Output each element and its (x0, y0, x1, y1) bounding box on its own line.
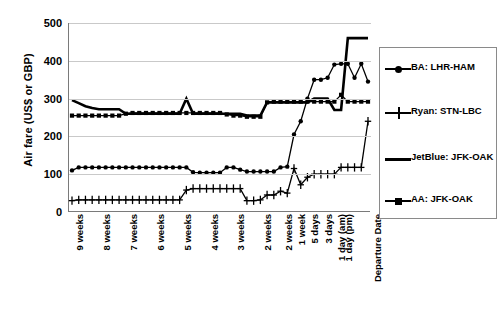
marker-point (83, 165, 87, 169)
marker-point (204, 111, 208, 115)
marker-point (292, 100, 296, 104)
marker-point (117, 114, 121, 118)
legend-square-marker (395, 198, 402, 205)
y-axis-tick-labels: 5004003002001000 (26, 0, 62, 322)
y-tick-label: 300 (28, 94, 62, 104)
plot-area (68, 23, 370, 212)
marker-point (77, 114, 81, 118)
legend-square-icon (385, 195, 411, 207)
marker-point (110, 114, 114, 118)
marker-point (97, 114, 101, 118)
marker-point (164, 165, 168, 169)
marker-point (278, 165, 282, 169)
marker-point (252, 115, 256, 119)
y-tick-label: 400 (28, 56, 62, 66)
legend-line (385, 158, 411, 161)
x-tick-label: 5 weeks (183, 214, 193, 304)
marker-point (157, 165, 161, 169)
marker-point (137, 111, 141, 115)
marker-point (339, 62, 343, 66)
marker-point (130, 111, 134, 115)
legend-item[interactable]: JetBlue: JFK-OAK (385, 152, 495, 165)
marker-point (272, 169, 276, 173)
gridline (69, 99, 371, 100)
x-tick-label: 3 days (324, 214, 334, 304)
marker-point (231, 165, 235, 169)
marker-point (265, 100, 269, 104)
y-tick-label: 200 (28, 131, 62, 141)
marker-point (110, 165, 114, 169)
marker-point (319, 78, 323, 82)
marker-point (332, 62, 336, 66)
legend-item[interactable]: BA: LHR-HAM (385, 62, 495, 75)
marker-point (77, 165, 81, 169)
marker-point (245, 115, 249, 119)
marker-point (130, 165, 134, 169)
marker-point (124, 112, 128, 116)
marker-point (312, 100, 316, 104)
legend-plus-marker (398, 107, 400, 119)
gridline (69, 23, 371, 24)
marker-point (171, 165, 175, 169)
marker-point (151, 111, 155, 115)
gridline (69, 174, 371, 175)
marker-point (218, 111, 222, 115)
marker-point (164, 111, 168, 115)
marker-point (103, 165, 107, 169)
marker-point (211, 111, 215, 115)
legend-label: Ryan: STN-LBC (411, 106, 482, 117)
marker-point (70, 114, 74, 118)
marker-point (117, 165, 121, 169)
marker-point (104, 114, 108, 118)
marker-point (171, 111, 175, 115)
marker-point (352, 100, 356, 104)
x-tick-label: 2 weeks (263, 214, 273, 304)
legend-line-icon (385, 153, 411, 165)
marker-point (238, 167, 242, 171)
marker-point (332, 100, 336, 104)
marker-point (144, 165, 148, 169)
chart-figure: Air fare (US$ or GBP) 5004003002001000 9… (0, 0, 501, 322)
marker-point (225, 165, 229, 169)
chart-legend: BA: LHR-HAMRyan: STN-LBCJetBlue: JFK-OAK… (379, 47, 497, 219)
x-tick-label: 5 days (310, 214, 320, 304)
marker-point (97, 165, 101, 169)
marker-point (339, 93, 343, 97)
gridline (69, 136, 371, 137)
y-tick-label: 500 (28, 18, 62, 28)
marker-point (359, 100, 363, 104)
marker-point (251, 169, 255, 173)
marker-point (352, 76, 356, 80)
legend-item[interactable]: Ryan: STN-LBC (385, 106, 495, 119)
marker-point (191, 111, 195, 115)
marker-point (137, 165, 141, 169)
marker-point (198, 111, 202, 115)
marker-point (231, 114, 235, 118)
x-tick-label: 1 week (297, 214, 307, 304)
series-canvas (69, 23, 371, 212)
marker-point (305, 100, 309, 104)
x-tick-label: 6 weeks (156, 214, 166, 304)
series-line-0 (72, 64, 368, 173)
gridline (69, 61, 371, 62)
x-tick-label: Departure Date (373, 214, 383, 304)
legend-label: BA: LHR-HAM (411, 62, 475, 73)
marker-point (366, 100, 370, 104)
marker-point (346, 100, 350, 104)
legend-label: JetBlue: JFK-OAK (411, 152, 493, 163)
marker-point (299, 100, 303, 104)
marker-point (278, 100, 282, 104)
y-tick-label: 0 (28, 207, 62, 217)
x-axis-tick-labels: 9 weeks8 weeks7 weeks6 weeks5 weeks4 wee… (68, 214, 370, 322)
marker-point (312, 78, 316, 82)
marker-point (178, 111, 182, 115)
legend-plus-icon (385, 107, 411, 119)
marker-point (184, 111, 188, 115)
marker-point (245, 169, 249, 173)
marker-point (90, 114, 94, 118)
legend-circle-marker (395, 66, 402, 73)
marker-point (225, 112, 229, 116)
legend-circle-icon (385, 63, 411, 75)
legend-item[interactable]: AA: JFK-OAK (385, 194, 495, 207)
marker-point (285, 100, 289, 104)
